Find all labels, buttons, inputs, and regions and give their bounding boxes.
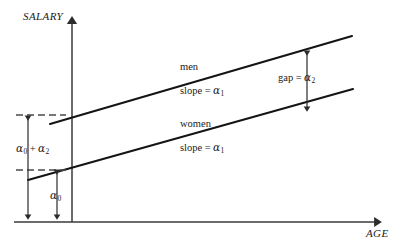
gap-subscript: 2 <box>311 76 315 85</box>
women-regression-line <box>28 89 353 180</box>
men-series-label: men <box>180 62 198 73</box>
gap-annotation-label: gap=α2 <box>278 72 315 85</box>
intercept-sum-subscript-second: 2 <box>45 147 49 156</box>
x-axis-label: AGE <box>366 228 389 239</box>
intercept-base-subscript: 0 <box>57 194 61 203</box>
women-slope-label: slope=α1 <box>180 142 224 155</box>
men-slope-subscript: 1 <box>220 89 224 98</box>
women-slope-subscript: 1 <box>220 146 224 155</box>
y-axis-label: SALARY <box>23 11 63 22</box>
intercept-base-label: α0 <box>50 190 61 203</box>
men-slope-label: slope=α1 <box>180 85 224 98</box>
salary-age-diagram: SALARY AGE men slope=α1 women slope=α1 g… <box>0 0 402 249</box>
men-slope-equals: = <box>202 85 213 96</box>
women-series-label: women <box>180 119 211 130</box>
gap-equals: = <box>293 72 304 83</box>
intercept-sum-operator: + <box>27 143 38 154</box>
women-slope-word: slope <box>180 142 202 153</box>
women-slope-equals: = <box>202 142 213 153</box>
gap-word: gap <box>278 72 293 83</box>
men-slope-word: slope <box>180 85 202 96</box>
intercept-sum-label: α0+α2 <box>16 143 49 156</box>
